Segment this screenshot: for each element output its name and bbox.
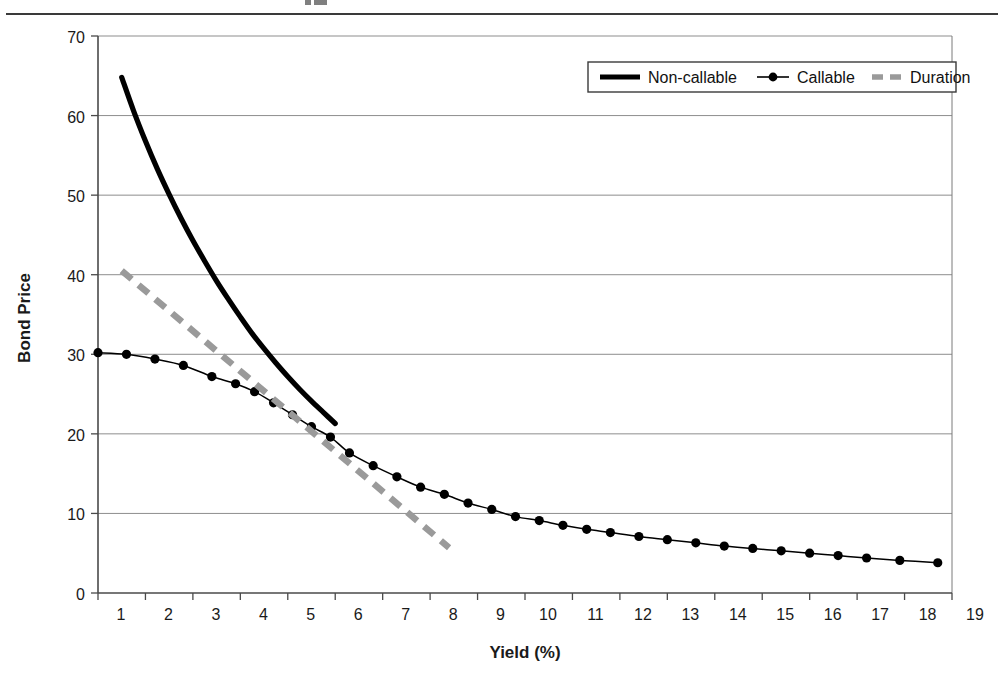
legend-label-callable: Callable [797, 69, 855, 86]
page-canvas: 12345678910111213141516171819 0102030405… [0, 0, 1004, 680]
svg-text:12: 12 [634, 606, 652, 623]
svg-text:40: 40 [67, 268, 85, 285]
data-point [511, 512, 520, 521]
svg-text:13: 13 [681, 606, 699, 623]
svg-text:1: 1 [117, 606, 126, 623]
data-point [862, 553, 871, 562]
svg-text:2: 2 [164, 606, 173, 623]
svg-text:19: 19 [966, 606, 984, 623]
svg-text:10: 10 [539, 606, 557, 623]
svg-text:0: 0 [76, 586, 85, 603]
data-point [691, 538, 700, 547]
bond-price-yield-chart: 12345678910111213141516171819 0102030405… [0, 0, 1004, 680]
legend-swatch-callable-marker [769, 73, 778, 82]
data-point [535, 516, 544, 525]
svg-text:6: 6 [354, 606, 363, 623]
data-point [345, 448, 354, 457]
svg-text:30: 30 [67, 347, 85, 364]
x-axis-tick-labels: 12345678910111213141516171819 [117, 606, 984, 623]
data-point [606, 528, 615, 537]
data-point [582, 525, 591, 534]
svg-text:18: 18 [919, 606, 937, 623]
y-axis-tick-labels: 010203040506070 [67, 29, 85, 603]
svg-text:14: 14 [729, 606, 747, 623]
data-point [663, 535, 672, 544]
legend-label-duration: Duration [910, 69, 970, 86]
svg-text:70: 70 [67, 29, 85, 46]
data-point [392, 472, 401, 481]
data-point [369, 461, 378, 470]
svg-text:8: 8 [449, 606, 458, 623]
data-point [720, 541, 729, 550]
data-point [805, 549, 814, 558]
chart-legend: Non-callable Callable Duration [588, 62, 970, 92]
svg-text:4: 4 [259, 606, 268, 623]
data-point [634, 532, 643, 541]
data-point [748, 544, 757, 553]
svg-text:9: 9 [496, 606, 505, 623]
data-point [416, 483, 425, 492]
plot-area-background [98, 36, 952, 593]
svg-text:20: 20 [67, 427, 85, 444]
svg-text:15: 15 [776, 606, 794, 623]
data-point [463, 498, 472, 507]
data-point [487, 505, 496, 514]
data-point [933, 558, 942, 567]
data-point [440, 490, 449, 499]
svg-text:50: 50 [67, 188, 85, 205]
y-axis-ticks [91, 36, 98, 593]
data-point [150, 354, 159, 363]
data-point [895, 556, 904, 565]
data-point [122, 350, 131, 359]
data-point [207, 372, 216, 381]
data-point [834, 551, 843, 560]
y-axis-title: Bond Price [15, 273, 34, 363]
svg-text:16: 16 [824, 606, 842, 623]
svg-text:5: 5 [306, 606, 315, 623]
x-axis-ticks [98, 593, 952, 600]
data-point [558, 521, 567, 530]
data-point [93, 348, 102, 357]
svg-text:7: 7 [401, 606, 410, 623]
data-point [179, 361, 188, 370]
data-point [326, 432, 335, 441]
svg-text:10: 10 [67, 506, 85, 523]
legend-label-non-callable: Non-callable [648, 69, 737, 86]
svg-text:60: 60 [67, 109, 85, 126]
data-point [231, 379, 240, 388]
svg-text:3: 3 [211, 606, 220, 623]
chart-svg: 12345678910111213141516171819 0102030405… [0, 0, 1004, 680]
x-axis-title: Yield (%) [489, 643, 560, 662]
data-point [777, 546, 786, 555]
svg-text:17: 17 [871, 606, 889, 623]
svg-text:11: 11 [587, 606, 604, 623]
